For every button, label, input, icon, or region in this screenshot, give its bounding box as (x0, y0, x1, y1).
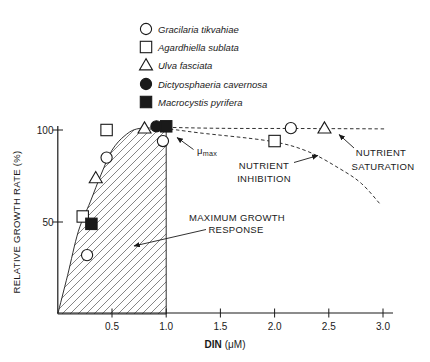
x-axis-title-name: DIN (205, 339, 222, 350)
data-point-circle-open (101, 152, 112, 163)
legend-circle-solid-icon (140, 78, 151, 89)
nutrient-saturation-arrow (339, 135, 354, 149)
data-point-triangle-open (318, 122, 331, 133)
nutrient-inhibition-label-2: INHIBITION (237, 173, 291, 184)
legend-item: Macrocystis pyrifera (140, 96, 242, 107)
legend-item: Gracilaria tikvahiae (140, 23, 238, 34)
maximum-growth-label-2: RESPONSE (208, 224, 263, 235)
growth-rate-figure: Gracilaria tikvahiaeAgardhiella sublataU… (0, 0, 430, 362)
x-tick-label: 2.0 (268, 321, 282, 332)
x-tick-label: 2.5 (322, 321, 336, 332)
annotation-nutrient-inhibition: NUTRIENT INHIBITION (237, 156, 318, 185)
data-point-square-open (101, 124, 112, 135)
legend-square-solid-icon (140, 96, 151, 107)
legend-item: Agardhiella sublata (140, 41, 239, 52)
data-point-square-open (269, 135, 280, 146)
y-tick-label: 50 (42, 217, 54, 228)
y-tick-label: 100 (37, 125, 54, 136)
legend-circle-open-icon (140, 23, 151, 34)
legend-label: Macrocystis pyrifera (158, 97, 242, 108)
x-tick-label: 0.5 (105, 321, 119, 332)
nutrient-inhibition-arrow (294, 156, 318, 163)
legend-item: Ulva fasciata (140, 59, 213, 71)
data-point-square-solid (161, 121, 172, 132)
mu-subscript: max (203, 149, 218, 158)
legend-square-open-icon (140, 41, 151, 52)
legend-label: Agardhiella sublata (157, 42, 239, 53)
data-point-triangle-open (138, 122, 151, 133)
data-point-circle-open (81, 250, 92, 261)
nutrient-saturation-label-2: SATURATION (352, 161, 415, 172)
annotation-nutrient-saturation: NUTRIENT SATURATION (339, 135, 414, 173)
legend: Gracilaria tikvahiaeAgardhiella sublataU… (140, 23, 268, 107)
mu-max-arrow (177, 138, 194, 150)
mu-max-label: μmax (197, 145, 217, 158)
nutrient-inhibition-label-1: NUTRIENT (239, 160, 289, 171)
x-tick-label: 3.0 (376, 321, 390, 332)
chart-canvas: Gracilaria tikvahiaeAgardhiella sublataU… (0, 0, 430, 362)
x-tick-label: 1.0 (159, 321, 173, 332)
x-axis-title-unit: (μM) (225, 339, 246, 350)
x-axis-title: DIN(μM) (205, 339, 246, 350)
data-point-square-solid (86, 218, 97, 229)
legend-label: Ulva fasciata (158, 60, 212, 71)
y-axis-title: RELATIVE GROWTH RATE (%) (11, 150, 22, 293)
legend-label: Gracilaria tikvahiae (158, 24, 239, 35)
data-point-circle-open (157, 135, 168, 146)
data-point-circle-open (285, 123, 296, 134)
x-tick-label: 1.5 (213, 321, 227, 332)
maximum-growth-label-1: MAXIMUM GROWTH (189, 212, 285, 223)
legend-label: Dictyosphaeria cavernosa (158, 79, 267, 90)
nutrient-saturation-line (161, 127, 385, 129)
legend-item: Dictyosphaeria cavernosa (140, 78, 267, 89)
legend-triangle-open-icon (140, 59, 153, 70)
nutrient-saturation-label-1: NUTRIENT (356, 147, 406, 158)
annotation-mu-max: μmax (177, 138, 217, 159)
